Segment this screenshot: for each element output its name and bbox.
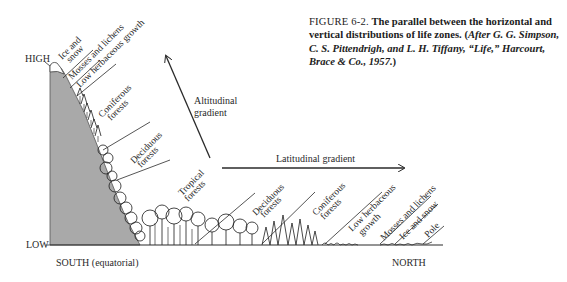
latitudinal-label: Latitudinal gradient: [276, 153, 355, 164]
altitudinal-label-2: gradient: [194, 107, 227, 118]
high-label: HIGH: [25, 53, 50, 64]
citation-close: ): [393, 56, 397, 67]
north-label: NORTH: [392, 257, 426, 268]
figure-label: FIGURE 6-2.: [309, 16, 369, 27]
alt-zone-herbaceous: Low herbaceous growth: [74, 17, 146, 89]
south-label: SOUTH (equatorial): [56, 257, 138, 269]
lat-zone-pole: Pole: [422, 220, 441, 239]
altitudinal-label-1: Altitudinal: [194, 95, 238, 106]
low-label: LOW: [26, 239, 49, 250]
figure-caption: FIGURE 6-2. The parallel between the hor…: [309, 15, 567, 69]
